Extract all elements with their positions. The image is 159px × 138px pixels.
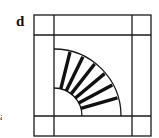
fan-blades bbox=[61, 52, 118, 108]
quilt-block-diagram bbox=[0, 0, 159, 138]
fan-blade-3 bbox=[71, 64, 94, 94]
fan-inner-arc bbox=[54, 88, 82, 116]
fan-blade-4 bbox=[75, 74, 104, 98]
outer-square bbox=[34, 15, 151, 136]
